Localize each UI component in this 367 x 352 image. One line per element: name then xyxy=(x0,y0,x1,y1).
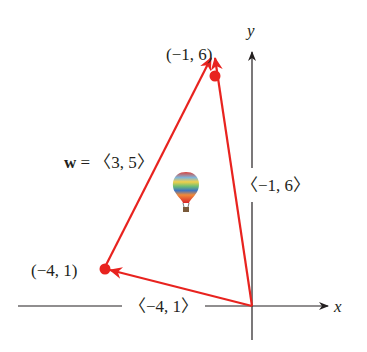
hot-air-balloon-icon xyxy=(173,172,199,212)
point-label-neg1-6: (−1, 6) xyxy=(166,45,212,64)
point-label-neg4-1: (−4, 1) xyxy=(31,261,77,280)
y-axis-label: y xyxy=(245,21,255,40)
w-value: = 〈3, 5〉 xyxy=(76,153,154,172)
x-axis-label: x xyxy=(333,297,342,316)
point-neg4-1 xyxy=(100,264,111,275)
vector-label-neg4-1: 〈−4, 1〉 xyxy=(129,297,198,316)
vector-diagram: x y (−1, 6) (−4, 1) 〈−1, 6〉 〈−4, 1〉 w = … xyxy=(0,0,367,352)
point-neg1-6 xyxy=(210,71,221,82)
w-symbol: w xyxy=(64,153,77,172)
vector-label-neg1-6: 〈−1, 6〉 xyxy=(241,176,310,195)
vector-label-w: w = 〈3, 5〉 xyxy=(64,153,154,172)
